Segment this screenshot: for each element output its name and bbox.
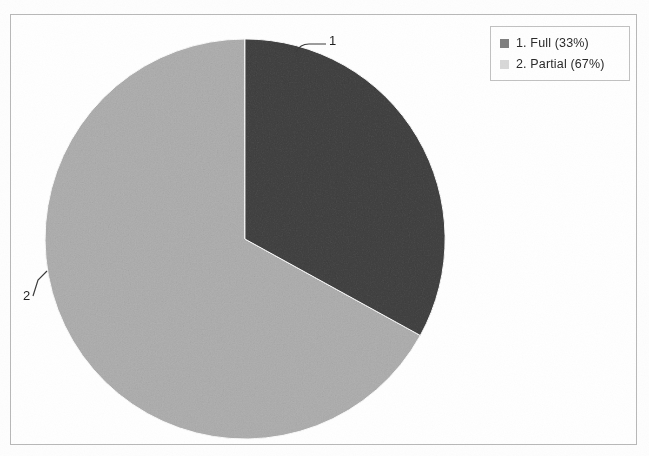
callout-2-label: 2: [23, 288, 30, 303]
legend-label-full: 1. Full (33%): [516, 33, 589, 54]
legend-item-partial[interactable]: 2. Partial (67%): [500, 54, 629, 75]
callout-2-leader-line: [33, 271, 47, 296]
chart-legend: 1. Full (33%) 2. Partial (67%): [490, 26, 630, 81]
legend-item-full[interactable]: 1. Full (33%): [500, 33, 629, 54]
callout-1-label: 1: [329, 33, 336, 48]
chart-page: 1 2 1. Full (33%) 2. Partial (67%): [0, 0, 649, 456]
legend-swatch-full-icon: [500, 39, 509, 48]
legend-label-partial: 2. Partial (67%): [516, 54, 605, 75]
legend-swatch-partial-icon: [500, 60, 509, 69]
